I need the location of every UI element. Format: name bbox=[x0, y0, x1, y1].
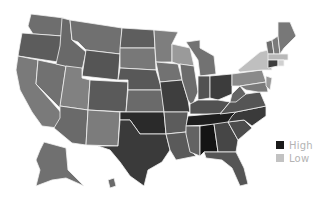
state-ri bbox=[278, 60, 284, 66]
state-sd bbox=[120, 48, 156, 70]
legend-label-high: High bbox=[289, 140, 313, 151]
state-nd bbox=[120, 28, 155, 48]
state-in bbox=[198, 76, 210, 100]
state-co bbox=[88, 80, 128, 112]
legend: High Low bbox=[276, 139, 313, 165]
state-ma bbox=[268, 54, 288, 60]
state-fl bbox=[204, 152, 248, 186]
state-hi bbox=[108, 178, 116, 188]
legend-swatch-high bbox=[276, 141, 284, 149]
state-me bbox=[278, 22, 296, 54]
state-oh bbox=[210, 74, 232, 100]
state-ct bbox=[268, 60, 278, 68]
state-wa bbox=[28, 14, 64, 36]
legend-item-low: Low bbox=[276, 152, 313, 164]
state-ar bbox=[164, 112, 188, 134]
legend-swatch-low bbox=[276, 154, 284, 162]
state-nm bbox=[86, 110, 120, 146]
state-ks bbox=[126, 90, 164, 112]
state-ak bbox=[36, 142, 84, 186]
legend-item-high: High bbox=[276, 139, 313, 151]
us-choropleth-map bbox=[0, 0, 323, 197]
state-ia bbox=[156, 62, 182, 82]
legend-label-low: Low bbox=[289, 153, 309, 164]
state-wy bbox=[82, 50, 120, 80]
state-ny bbox=[238, 50, 272, 72]
